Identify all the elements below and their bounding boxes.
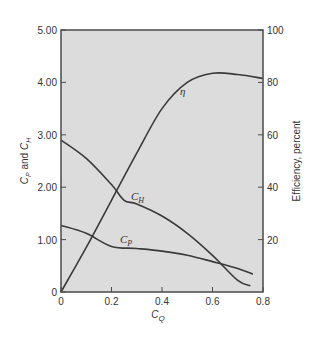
right-axis-title: Efficiency, percent (291, 120, 302, 201)
x-tick-label: 0 (58, 296, 64, 307)
x-tick-label: 0.2 (105, 296, 119, 307)
left-tick-label: 0 (51, 287, 57, 298)
right-tick-label: 60 (267, 130, 279, 141)
left-tick-label: 4.00 (38, 77, 58, 88)
x-tick-label: 0.6 (206, 296, 220, 307)
right-tick-label: 20 (267, 235, 279, 246)
eta-curve-label: η (180, 85, 185, 97)
right-tick-label: 80 (267, 77, 279, 88)
right-tick-label: 100 (267, 25, 284, 36)
performance-chart: 00.20.40.60.8 01.002.003.004.005.00 2040… (0, 0, 311, 340)
left-tick-label: 5.00 (38, 25, 58, 36)
left-tick-label: 1.00 (38, 235, 58, 246)
x-axis-title: CQ (151, 309, 164, 323)
x-tick-label: 0.8 (256, 296, 270, 307)
left-tick-label: 3.00 (38, 130, 58, 141)
right-tick-label: 40 (267, 182, 279, 193)
left-tick-label: 2.00 (38, 182, 58, 193)
x-tick-label: 0.4 (155, 296, 169, 307)
left-axis-title: CP and CH (19, 137, 32, 184)
plot-area (61, 30, 263, 292)
